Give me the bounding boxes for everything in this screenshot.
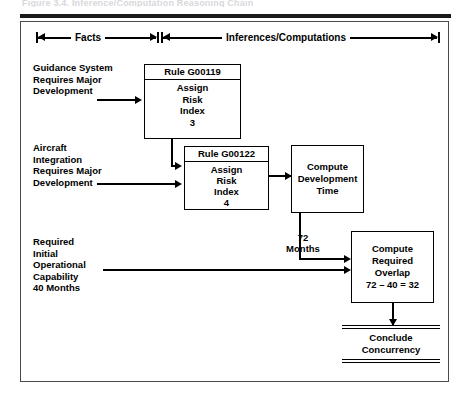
arrowhead-compute-dev-to-overlap-icon: [344, 255, 351, 263]
fact-guidance-system: Guidance System Requires Major Developme…: [33, 62, 141, 97]
rule-box-g00119-body: Assign Risk Index 3: [145, 80, 240, 128]
fact-aircraft-integration: Aircraft Integration Requires Major Deve…: [33, 142, 141, 188]
rule-box-g00119-header: Rule G00119: [145, 65, 240, 80]
rule-box-g00122: Rule G00122 Assign Risk Index 4: [184, 146, 269, 210]
facts-arrow-right-icon: [150, 33, 157, 41]
connector-compute-dev-to-overlap: [299, 258, 346, 260]
conclusion-text: Conclude Concurrency: [342, 329, 440, 359]
conclusion-conclude-concurrency: Conclude Concurrency: [342, 325, 440, 363]
compute-box-required-overlap-text: Compute Required Overlap 72 – 40 = 32: [352, 232, 433, 302]
header-label-facts: Facts: [71, 32, 105, 43]
connector-aircraft-to-rule122: [97, 183, 177, 185]
arrowhead-ioc-to-overlap-icon: [344, 266, 351, 274]
compute-box-required-overlap: Compute Required Overlap 72 – 40 = 32: [351, 231, 434, 303]
connector-guidance-to-rule119: [97, 99, 137, 101]
arrowhead-guidance-to-rule119-icon: [135, 96, 142, 104]
figure-canvas: Figure 3.4. Inference/Computation Reason…: [0, 0, 468, 397]
fact-required-ioc: Required Initial Operational Capability …: [33, 236, 133, 294]
compute-box-development-time-text: Compute Development Time: [292, 146, 363, 212]
connector-ioc-to-overlap: [103, 269, 346, 271]
conclusion-bottom-double-rule: [342, 359, 440, 363]
figure-caption-top: Figure 3.4. Inference/Computation Reason…: [22, 0, 352, 7]
inferences-span-right-cap: [438, 32, 440, 43]
rule-box-g00122-header: Rule G00122: [185, 147, 268, 162]
connector-rule119-down: [171, 139, 173, 167]
compute-box-development-time: Compute Development Time: [291, 145, 364, 213]
header-label-inferences: Inferences/Computations: [222, 32, 350, 43]
arrowhead-aircraft-to-rule122-icon: [175, 180, 182, 188]
facts-span-right-cap: [157, 32, 159, 43]
inferences-arrow-left-icon: [163, 33, 170, 41]
rule-box-g00119: Rule G00119 Assign Risk Index 3: [144, 64, 241, 139]
facts-arrow-left-icon: [38, 33, 45, 41]
rule-box-g00122-body: Assign Risk Index 4: [185, 162, 268, 208]
annotation-72-months: 72 Months: [282, 232, 324, 254]
top-rule-bar: [20, 14, 451, 18]
arrowhead-rule119-to-rule122-icon: [175, 162, 182, 170]
inferences-arrow-right-icon: [431, 33, 438, 41]
